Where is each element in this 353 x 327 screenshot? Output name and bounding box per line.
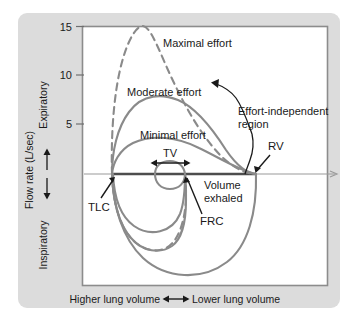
y-tick-label-15: 15 (60, 21, 72, 33)
label-maximal-effort: Maximal effort (163, 37, 232, 49)
label-tlc: TLC (88, 201, 110, 213)
y-tick-label-10: 10 (60, 69, 72, 81)
x-axis-label-right: Lower lung volume (192, 293, 280, 305)
y-axis-label-expiratory: Expiratory (37, 81, 49, 129)
y-tick-label-5: 5 (66, 118, 72, 130)
label-rv: RV (268, 140, 284, 152)
y-axis-title: Flow rate (L/sec) (23, 131, 35, 209)
flow-volume-loop-figure: 15 10 5 Flow rate (L/sec) Expiratory Ins… (0, 0, 353, 327)
label-volume-exhaled-line2: exhaled (204, 192, 243, 204)
label-effort-independent-line1: Effort-independent (238, 105, 328, 117)
label-minimal-effort: Minimal effort (140, 129, 206, 141)
label-frc: FRC (200, 215, 224, 227)
y-axis-label-inspiratory: Inspiratory (37, 220, 49, 270)
label-moderate-effort: Moderate effort (127, 86, 201, 98)
label-tv: TV (163, 147, 178, 159)
label-volume-exhaled-line1: Volume (204, 179, 241, 191)
flow-volume-chart-svg: 15 10 5 Flow rate (L/sec) Expiratory Ins… (0, 0, 353, 327)
x-axis-label-left: Higher lung volume (70, 293, 161, 305)
label-effort-independent-line2: region (238, 118, 269, 130)
